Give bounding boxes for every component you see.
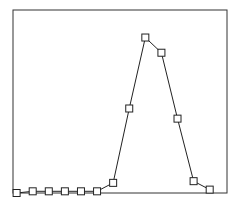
plot-frame — [13, 10, 227, 193]
line-chart — [0, 0, 240, 206]
square-marker-icon — [77, 188, 84, 195]
square-marker-icon — [94, 188, 101, 195]
square-marker-icon — [13, 190, 20, 197]
square-marker-icon — [45, 188, 52, 195]
square-marker-icon — [190, 178, 197, 185]
square-marker-icon — [126, 105, 133, 112]
square-marker-icon — [206, 186, 213, 193]
square-marker-icon — [29, 188, 36, 195]
square-marker-icon — [142, 34, 149, 41]
square-marker-icon — [61, 188, 68, 195]
square-marker-icon — [158, 49, 165, 56]
series-layer — [13, 34, 213, 196]
square-marker-icon — [110, 179, 117, 186]
square-marker-icon — [174, 115, 181, 122]
